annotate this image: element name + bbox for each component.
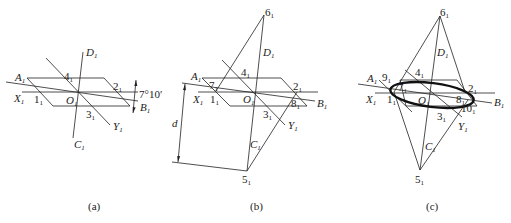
svg-text:A1: A1	[190, 70, 201, 84]
caption-b: (b)	[250, 200, 263, 213]
svg-text:11: 11	[210, 93, 220, 107]
line-5-base	[172, 162, 247, 171]
svg-text:31: 31	[437, 110, 447, 124]
svg-text:101: 101	[461, 102, 476, 116]
y-axis-a	[46, 58, 110, 125]
angle-label: 7°10′	[139, 88, 162, 100]
svg-text:B1: B1	[317, 97, 327, 111]
svg-text:51: 51	[242, 173, 252, 187]
caption-c: (c)	[426, 200, 439, 213]
svg-text:91: 91	[382, 71, 392, 85]
svg-text:X1: X1	[192, 93, 203, 107]
d-label: d	[172, 117, 178, 129]
axonometric-ellipse-construction-figure: D1 A1 41 21 X1 11 O1 B1 7°10′ 31 Y1 C1 (…	[0, 0, 511, 223]
svg-text:C1: C1	[74, 138, 85, 152]
y-axis-c	[405, 70, 462, 117]
svg-text:A1: A1	[14, 71, 25, 85]
svg-text:21: 21	[468, 82, 478, 96]
svg-text:31: 31	[86, 108, 96, 122]
svg-text:D1: D1	[85, 46, 97, 60]
svg-text:C1: C1	[250, 138, 261, 152]
svg-text:71: 71	[209, 79, 219, 93]
svg-text:A1: A1	[366, 72, 377, 86]
svg-text:O1: O1	[243, 93, 254, 107]
svg-text:51: 51	[415, 173, 425, 187]
dimension-d	[178, 84, 185, 162]
svg-text:41: 41	[64, 70, 74, 84]
panel-b: 61 D1 41 A1 71 21 X1 11 O1 81 B1 31 Y1 d…	[172, 6, 327, 213]
svg-text:Y1: Y1	[288, 119, 298, 133]
svg-text:41: 41	[415, 66, 425, 80]
svg-text:11: 11	[34, 93, 44, 107]
svg-text:O1: O1	[66, 94, 77, 108]
svg-text:D1: D1	[262, 46, 274, 60]
svg-text:B1: B1	[494, 96, 504, 110]
panel-c: 61 D1 41 A1 91 71 21 X1 11 O1 81 101 B1 …	[358, 6, 504, 213]
svg-text:61: 61	[440, 6, 450, 20]
svg-text:21: 21	[113, 80, 123, 94]
svg-text:X1: X1	[13, 92, 24, 106]
panel-a: D1 A1 41 21 X1 11 O1 B1 7°10′ 31 Y1 C1 (…	[6, 46, 162, 213]
svg-text:Y1: Y1	[113, 120, 123, 134]
svg-text:41: 41	[241, 66, 251, 80]
svg-text:X1: X1	[365, 93, 376, 107]
svg-text:B1: B1	[140, 101, 150, 115]
svg-text:61: 61	[265, 6, 275, 20]
svg-text:O1: O1	[418, 94, 429, 108]
caption-a: (a)	[88, 200, 101, 213]
svg-text:D1: D1	[436, 46, 448, 60]
svg-text:C1: C1	[425, 140, 436, 154]
svg-text:21: 21	[293, 80, 303, 94]
y-axis-b	[222, 60, 285, 125]
svg-text:Y1: Y1	[458, 120, 468, 134]
